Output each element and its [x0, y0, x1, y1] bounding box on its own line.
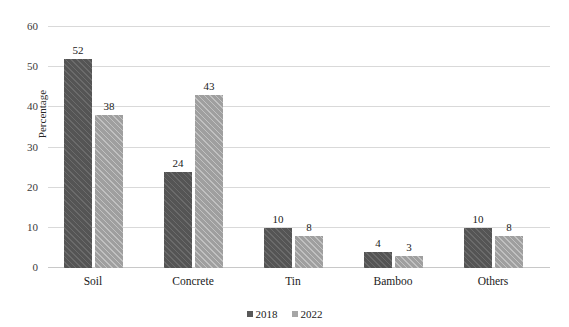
bar: 38 — [95, 115, 123, 268]
x-axis-tick-labels: SoilConcreteTinBambooOthers — [48, 274, 550, 292]
bar-value-label: 8 — [506, 222, 512, 233]
bar-value-label: 3 — [406, 242, 412, 253]
y-axis-tick-label: 30 — [0, 142, 38, 153]
bar-value-label: 10 — [473, 214, 484, 225]
legend-label: 2018 — [256, 308, 278, 320]
bar: 8 — [495, 236, 523, 268]
bar-value-label: 52 — [73, 45, 84, 56]
bar-group: 108 — [262, 27, 324, 268]
legend-swatch-icon — [247, 311, 253, 317]
legend-item[interactable]: 2018 — [247, 308, 278, 320]
bar-group: 43 — [362, 27, 424, 268]
bar: 8 — [295, 236, 323, 268]
bar-group: 108 — [462, 27, 524, 268]
bar-value-label: 4 — [375, 238, 381, 249]
bar: 4 — [364, 252, 392, 268]
y-axis-tick-label: 10 — [0, 222, 38, 233]
y-axis-tick-label: 50 — [0, 61, 38, 72]
bar-chart: Percentage 0102030405060 523824431084310… — [0, 0, 569, 327]
bar-group: 2443 — [162, 27, 224, 268]
bar-value-label: 10 — [273, 214, 284, 225]
bar: 43 — [195, 95, 223, 268]
bar-value-label: 24 — [173, 158, 184, 169]
bar: 10 — [464, 228, 492, 268]
y-axis-tick-label: 20 — [0, 182, 38, 193]
bar-group: 5238 — [62, 27, 124, 268]
y-axis-tick-label: 60 — [0, 21, 38, 32]
bar-value-label: 8 — [306, 222, 312, 233]
plot-area: 5238244310843108 — [48, 27, 550, 268]
legend-swatch-icon — [292, 311, 298, 317]
bar: 10 — [264, 228, 292, 268]
legend-label: 2022 — [301, 308, 323, 320]
y-axis-tick-label: 40 — [0, 101, 38, 112]
bar-value-label: 43 — [204, 81, 215, 92]
y-axis-tick-labels: 0102030405060 — [0, 27, 42, 268]
bar: 52 — [64, 59, 92, 268]
legend-item[interactable]: 2022 — [292, 308, 323, 320]
bar-value-label: 38 — [104, 101, 115, 112]
bar: 24 — [164, 172, 192, 268]
y-axis-tick-label: 0 — [0, 262, 38, 273]
x-axis-tick-label: Others — [433, 274, 553, 288]
chart-legend: 20182022 — [0, 308, 569, 320]
bar: 3 — [395, 256, 423, 268]
